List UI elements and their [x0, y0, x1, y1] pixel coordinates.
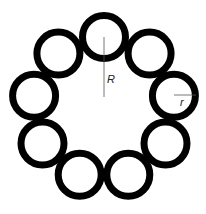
ring-circle — [144, 122, 187, 165]
ring-circle — [128, 32, 171, 75]
ring-circle — [107, 153, 150, 196]
ring-diagram: R r — [0, 0, 206, 214]
ring-circle — [13, 74, 56, 117]
ring-circle — [58, 153, 101, 196]
ring-circle — [37, 32, 80, 75]
big-radius-label: R — [107, 73, 115, 85]
small-radius-label: r — [180, 96, 185, 108]
ring-circle — [152, 74, 195, 117]
ring-circle — [21, 122, 64, 165]
